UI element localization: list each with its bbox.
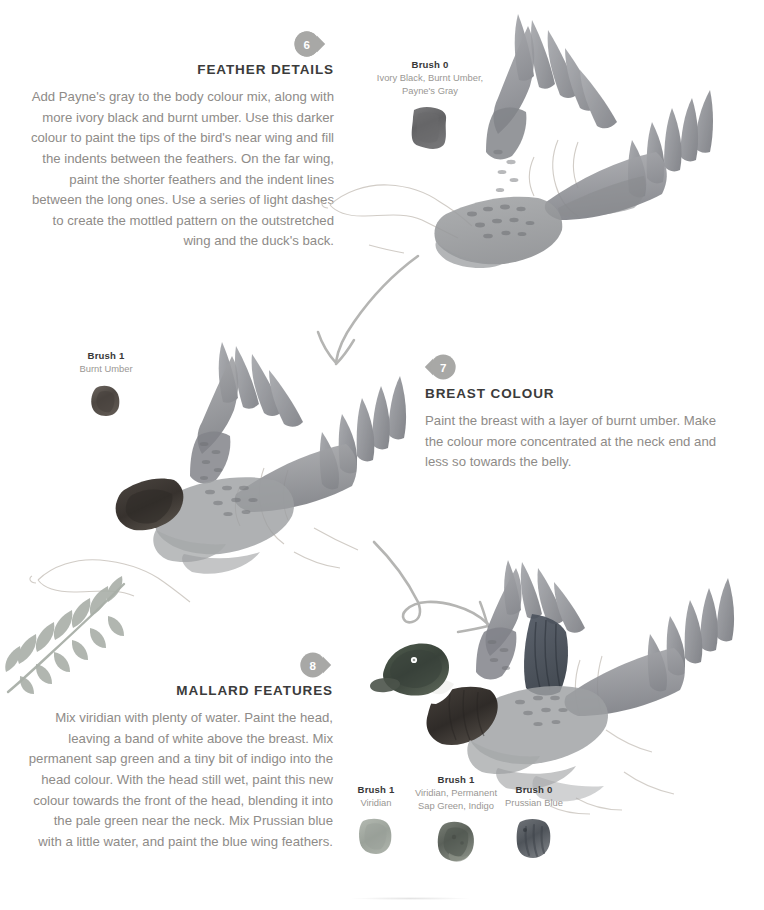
step-7-body: Paint the breast with a layer of burnt u… <box>425 411 733 473</box>
step-8-body: Mix viridian with plenty of water. Paint… <box>28 708 333 852</box>
arrow-7-to-8 <box>366 540 532 668</box>
step-badge-7: 7 <box>424 351 456 383</box>
brush-swatch-viridian-title: Brush 1 <box>340 783 412 796</box>
brush-swatch-sapgreen-paint <box>435 819 477 865</box>
brush-swatch-top-description: Ivory Black, Burnt Umber, Payne's Gray <box>374 72 486 97</box>
brush-swatch-prussian: Brush 0 Prussian Blue <box>494 783 574 861</box>
step-badge-7-number: 7 <box>440 361 446 374</box>
brush-swatch-viridian-paint <box>357 817 395 857</box>
step-badge-8-number: 8 <box>310 659 317 672</box>
brush-swatch-top-title: Brush 0 <box>374 58 486 71</box>
step-block-7: BREAST COLOUR Paint the breast with a la… <box>425 386 733 473</box>
brush-swatch-prussian-paint <box>514 817 554 861</box>
tutorial-page: 6 FEATHER DETAILS Add Payne's gray to th… <box>0 0 764 910</box>
step-badge-6-number: 6 <box>304 38 311 51</box>
brush-swatch-left: Brush 1 Burnt Umber <box>58 349 154 419</box>
brush-swatch-sapgreen: Brush 1 Viridian, Permanent Sap Green, I… <box>408 773 504 865</box>
step-8-heading: MALLARD FEATURES <box>28 683 333 699</box>
step-block-8: MALLARD FEATURES Mix viridian with plent… <box>28 683 333 852</box>
brush-swatch-sapgreen-title: Brush 1 <box>408 773 504 786</box>
brush-swatch-viridian-description: Viridian <box>340 797 412 810</box>
brush-swatch-left-description: Burnt Umber <box>58 363 154 376</box>
step-7-heading: BREAST COLOUR <box>425 386 733 402</box>
step-6-body: Add Payne's gray to the body colour mix,… <box>24 87 334 252</box>
page-bottom-shadow <box>352 897 470 900</box>
brush-swatch-prussian-description: Prussian Blue <box>494 797 574 810</box>
step-badge-6: 6 <box>294 28 326 60</box>
fern-leaf <box>4 572 128 700</box>
brush-swatch-left-paint <box>89 383 123 419</box>
step-6-heading: FEATHER DETAILS <box>24 62 334 78</box>
step-block-6: FEATHER DETAILS Add Payne's gray to the … <box>24 62 334 252</box>
brush-swatch-sapgreen-description: Viridian, Permanent Sap Green, Indigo <box>408 787 504 812</box>
brush-swatch-left-title: Brush 1 <box>58 349 154 362</box>
brush-swatch-top-paint <box>408 104 452 152</box>
brush-swatch-viridian: Brush 1 Viridian <box>340 783 412 857</box>
brush-swatch-prussian-title: Brush 0 <box>494 783 574 796</box>
brush-swatch-top: Brush 0 Ivory Black, Burnt Umber, Payne'… <box>374 58 486 152</box>
arrow-6-to-7 <box>292 250 422 382</box>
step-badge-8: 8 <box>300 649 332 681</box>
